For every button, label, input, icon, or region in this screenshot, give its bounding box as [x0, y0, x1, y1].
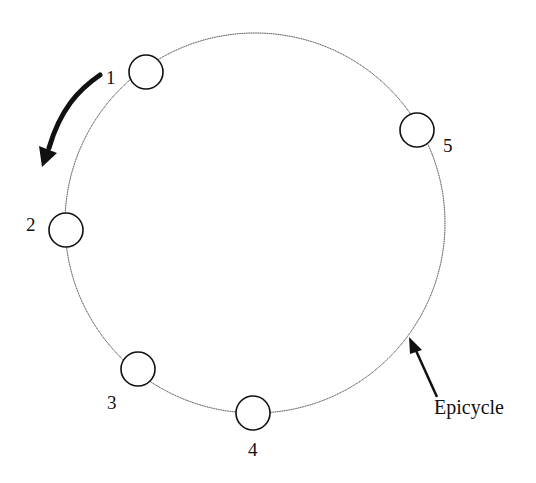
epicycle-diagram: 1 5 2 3 4 Epicycle	[0, 0, 536, 483]
position-label-5: 5	[443, 135, 453, 156]
epicycle-pointer-arrowhead	[409, 337, 422, 354]
position-circle-4	[236, 396, 270, 430]
position-label-3: 3	[107, 392, 117, 413]
position-circle-2	[49, 213, 83, 247]
position-circle-5	[400, 113, 434, 147]
position-circle-1	[129, 55, 163, 89]
position-label-1: 1	[106, 67, 116, 88]
motion-arrow-curve	[49, 75, 100, 148]
position-circle-3	[121, 352, 155, 386]
epicycle-pointer-arrow	[413, 344, 437, 397]
position-label-4: 4	[248, 439, 258, 460]
epicycle-label: Epicycle	[434, 396, 504, 419]
position-label-2: 2	[26, 214, 36, 235]
epicycle-orbit	[65, 33, 445, 413]
